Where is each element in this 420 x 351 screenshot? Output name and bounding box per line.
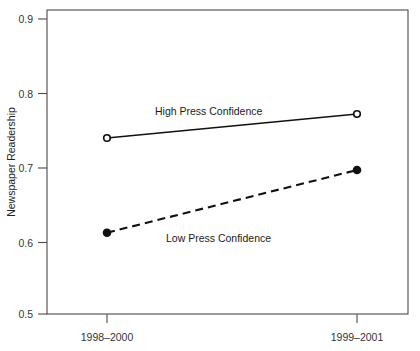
series-low-press-confidence <box>103 166 360 236</box>
y-tick-label-3: 0.8 <box>18 88 33 100</box>
y-axis-tick-labels: 0.9 0.8 0.7 0.6 0.5 <box>18 13 33 320</box>
series-line-high-press-confidence <box>107 114 357 138</box>
series-line-low-press-confidence <box>107 170 357 233</box>
y-tick-label-0: 0.5 <box>18 308 33 320</box>
annotation-low-press-confidence: Low Press Confidence <box>166 232 271 244</box>
data-point-low-1998-2000 <box>103 229 110 236</box>
x-axis-ticks <box>107 314 357 323</box>
x-tick-label-0: 1998–2000 <box>81 331 134 343</box>
y-axis-ticks <box>38 19 47 314</box>
plot-area-border <box>47 10 408 314</box>
y-axis-title: Newspaper Readership <box>5 107 17 217</box>
data-point-low-1999-2001 <box>353 166 360 173</box>
annotation-high-press-confidence: High Press Confidence <box>155 105 263 117</box>
y-tick-label-1: 0.6 <box>18 237 33 249</box>
x-axis-tick-labels: 1998–2000 1999–2001 <box>81 331 384 343</box>
data-point-high-1998-2000 <box>104 135 111 142</box>
x-tick-label-1: 1999–2001 <box>331 331 384 343</box>
chart-figure: 0.9 0.8 0.7 0.6 0.5 Newspaper Readership… <box>0 0 420 351</box>
y-tick-label-2: 0.7 <box>18 162 33 174</box>
y-tick-label-4: 0.9 <box>18 13 33 25</box>
data-point-high-1999-2001 <box>354 111 361 118</box>
line-chart: 0.9 0.8 0.7 0.6 0.5 Newspaper Readership… <box>0 0 420 351</box>
